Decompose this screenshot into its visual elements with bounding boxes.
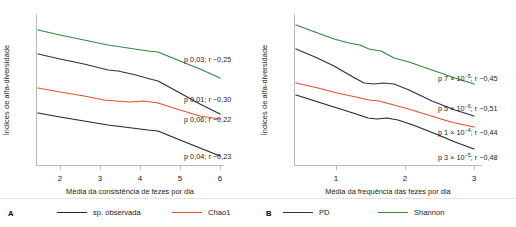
annotation-a-shannon: p 0,03; r −0,25: [184, 55, 231, 64]
x-axis-label-b: Média da frequência das fezes por dia: [280, 187, 496, 196]
x-tick-label-b-1: 2: [403, 174, 407, 183]
curves-a: [36, 14, 224, 166]
x-tick-label-a-4: 6: [218, 174, 222, 183]
panel-tag-a: A: [8, 209, 13, 218]
plot-area-b: 1 2 3 Média da frequência das fezes por …: [294, 14, 482, 166]
x-tick-a-3: [180, 166, 181, 170]
x-tick-label-a-3: 5: [178, 174, 182, 183]
annotation-a-chao1: p 0,06; r −0,22: [184, 115, 231, 124]
legend-row: A sp. observada Chao1 B PD Shannon: [0, 198, 516, 227]
annotation-a-pd: p 0,01; r −0,30: [184, 95, 231, 104]
x-tick-label-b-0: 1: [334, 174, 338, 183]
legend-swatch-observed: [57, 212, 87, 214]
y-axis-label-a: Índices de alfa-diversidade: [2, 14, 16, 166]
x-tick-a-4: [220, 166, 221, 170]
x-axis-label-a: Média da consistência de fezes por dia: [22, 187, 238, 196]
legend-label-pd: PD: [319, 208, 330, 217]
legend-swatch-shannon: [378, 212, 408, 214]
x-tick-b-0: [336, 166, 337, 170]
annotation-b-observed-suffix: ; r −0,48: [471, 153, 498, 162]
x-tick-a-0: [60, 166, 61, 170]
legend-item-shannon: Shannon: [378, 208, 444, 217]
x-tick-a-1: [100, 166, 101, 170]
legend-divider: [0, 198, 516, 199]
plot-area-a: 2 3 4 5 6 Média da consistência de fezes…: [36, 14, 224, 166]
legend-item-chao1: Chao1: [172, 208, 230, 217]
curve-shannon-a: [38, 30, 220, 78]
annotation-a-observed: p 0,04; r −0,23: [184, 152, 231, 161]
annotation-b-chao1: p 1 × 10−4; r −0,44: [438, 128, 498, 137]
y-axis-label-a-text: Índices de alfa-diversidade: [2, 45, 11, 136]
legend-label-shannon: Shannon: [414, 208, 444, 217]
legend-item-observed: sp. observada: [57, 208, 141, 217]
legend-item-pd: PD: [283, 208, 330, 217]
annotation-b-shannon-suffix: ; r −0,45: [471, 74, 498, 83]
annotation-b-chao1-prefix: p 1 × 10: [438, 128, 465, 137]
panel-b: Índices de alfa-diversidade 1 2 3 Média …: [258, 0, 516, 198]
x-tick-label-a-2: 4: [138, 174, 142, 183]
x-tick-b-1: [405, 166, 406, 170]
x-tick-label-a-0: 2: [58, 174, 62, 183]
annotation-b-observed-prefix: p 3 × 10: [438, 153, 465, 162]
annotation-b-observed: p 3 × 10−5; r −0,48: [438, 153, 498, 162]
annotation-b-pd-suffix: ; r −0,51: [471, 104, 498, 113]
x-tick-label-a-1: 3: [98, 174, 102, 183]
panel-a: Índices de alfa-diversidade 2 3 4 5 6 Mé…: [0, 0, 258, 198]
annotation-b-pd: p 5 × 10−6; r −0,51: [438, 104, 498, 113]
annotation-b-shannon: p 7 × 10−5; r −0,45: [438, 74, 498, 83]
y-axis-label-b: Índices de alfa-diversidade: [260, 14, 274, 166]
legend-label-observed: sp. observada: [93, 208, 141, 217]
legend-label-chao1: Chao1: [208, 208, 230, 217]
annotation-b-pd-prefix: p 5 × 10: [438, 104, 465, 113]
x-tick-label-b-2: 3: [472, 174, 476, 183]
annotation-b-chao1-suffix: ; r −0,44: [471, 128, 498, 137]
figure-root: Índices de alfa-diversidade 2 3 4 5 6 Mé…: [0, 0, 516, 227]
x-tick-b-2: [474, 166, 475, 170]
curves-b: [294, 14, 482, 166]
legend-swatch-pd: [283, 212, 313, 214]
legend-swatch-chao1: [172, 212, 202, 214]
panel-tag-b: B: [266, 209, 271, 218]
x-tick-a-2: [140, 166, 141, 170]
y-axis-label-b-text: Índices de alfa-diversidade: [260, 45, 269, 136]
annotation-b-shannon-prefix: p 7 × 10: [438, 74, 465, 83]
